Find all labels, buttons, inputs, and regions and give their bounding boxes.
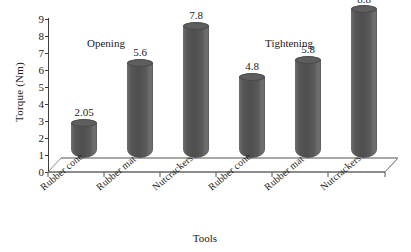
x-category-label-3: Rubber cone	[206, 151, 253, 193]
torque-bar-chart: Torque (Nm) 0 1 2 3 4 5 6 7 8 9	[0, 0, 411, 252]
bar-tightening-nutcrackers	[351, 9, 377, 158]
bar-value-tightening-rubber-cone: 4.8	[232, 61, 272, 72]
y-tick-mark-3	[45, 121, 49, 122]
y-tick-label-6: 6	[30, 65, 44, 76]
bar-opening-nutcrackers	[183, 26, 209, 158]
group-label-opening: Opening	[66, 37, 146, 49]
y-tick-mark-0	[45, 172, 49, 173]
y-tick-label-8: 8	[30, 31, 44, 42]
y-tick-mark-2	[45, 138, 49, 139]
x-category-label-1: Rubber mat	[94, 153, 138, 192]
x-axis-title: Tools	[175, 232, 235, 244]
y-tick-label-0: 0	[30, 167, 44, 178]
y-tick-label-3: 3	[30, 116, 44, 127]
y-tick-label-2: 2	[30, 133, 44, 144]
x-category-label-4: Rubber mat	[262, 153, 306, 192]
y-tick-label-4: 4	[30, 99, 44, 110]
bar-value-opening-nutcrackers: 7.8	[176, 10, 216, 21]
y-tick-mark-8	[45, 36, 49, 37]
y-tick-mark-7	[45, 53, 49, 54]
bar-value-opening-rubber-cone: 2.05	[64, 107, 104, 118]
y-tick-label-1: 1	[30, 150, 44, 161]
y-axis-title: Torque (Nm)	[13, 32, 25, 152]
bar-value-tightening-nutcrackers: 8.8	[344, 0, 384, 5]
y-tick-mark-1	[45, 155, 49, 156]
x-category-label-2: Nutcrackers	[150, 152, 195, 192]
y-tick-mark-5	[45, 87, 49, 88]
y-tick-label-5: 5	[30, 82, 44, 93]
bar-tightening-rubber-cone	[239, 77, 265, 158]
y-tick-mark-9	[45, 19, 49, 20]
x-category-label-5: Nutcrackers	[318, 152, 363, 192]
bar-tightening-rubber-mat	[295, 60, 321, 158]
y-tick-mark-4	[45, 104, 49, 105]
y-tick-label-7: 7	[30, 48, 44, 59]
y-axis-line	[48, 18, 49, 172]
group-label-tightening: Tightening	[244, 37, 334, 49]
y-tick-label-9: 9	[30, 14, 44, 25]
y-tick-mark-6	[45, 70, 49, 71]
bar-opening-rubber-mat	[127, 63, 153, 158]
